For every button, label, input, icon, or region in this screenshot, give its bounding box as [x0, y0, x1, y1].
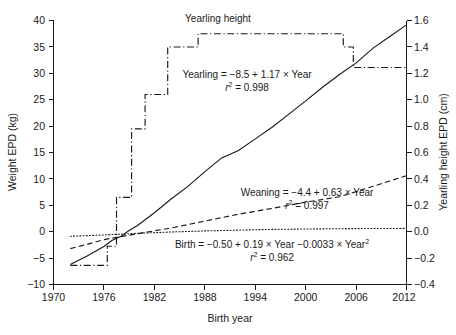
x-tick-label: 1976 — [92, 291, 116, 303]
y2-tick-label: 1.2 — [414, 67, 429, 79]
y2-tick-label: 0.8 — [414, 120, 429, 132]
x-tick-label: 1988 — [193, 291, 217, 303]
y2-tick-label: 0.4 — [414, 173, 429, 185]
y-tick-label: 10 — [33, 173, 45, 185]
y-tick-label: 30 — [33, 67, 45, 79]
birth-r2-text: r2 = 0.962 — [250, 251, 294, 263]
x-tick-label: 2000 — [294, 291, 318, 303]
weaning-equation-annotation: Weaning = −4.4 + 0.63 × Year r2 = 0.997 — [241, 187, 374, 211]
yearling-r2-value: = 0.998 — [232, 82, 269, 93]
y-axis-title: Weight EPD (kg) — [6, 113, 18, 191]
y2-tick-label: 0.6 — [414, 146, 429, 158]
x-axis-ticks — [54, 285, 407, 290]
birth-r2-value: = 0.962 — [257, 252, 294, 263]
y-tick-label: 35 — [33, 41, 45, 53]
yearling-r2-text: r2 = 0.998 — [225, 81, 269, 93]
x-tick-label: 2012 — [392, 291, 416, 303]
series-group — [70, 25, 406, 265]
y-tick-label: 40 — [33, 14, 45, 26]
y-tick-label: 5 — [39, 199, 45, 211]
y2-tick-label: −0.4 — [414, 278, 435, 290]
y2-axis-title: Yearling height EPD (cm) — [437, 93, 449, 211]
y-axis-right-tick-labels: 1.6 1.4 1.2 1.0 0.8 0.6 0.4 0.2 0.0 −0.2… — [414, 14, 435, 290]
yearling-equation-text: Yearling = −8.5 + 1.17 × Year — [182, 69, 312, 80]
y-tick-label: 25 — [33, 93, 45, 105]
weaning-r2-text: r2 = 0.997 — [285, 199, 329, 211]
y2-tick-label: 1.4 — [414, 41, 429, 53]
x-tick-label: 1994 — [244, 291, 268, 303]
y2-tick-label: 1.0 — [414, 93, 429, 105]
weaning-equation-text: Weaning = −4.4 + 0.63 × Year — [241, 187, 374, 198]
weaning-r2-value: = 0.997 — [292, 200, 329, 211]
y-tick-label: −5 — [33, 252, 45, 264]
y-tick-label: 15 — [33, 146, 45, 158]
epd-trend-chart: 40 35 30 25 20 15 10 5 0 −5 −10 1.6 1.4 … — [0, 0, 456, 335]
y2-tick-label: 0.2 — [414, 199, 429, 211]
birth-equation-text: Birth = −0.50 + 0.19 × Year −0.0033 × Ye… — [175, 238, 369, 250]
birth-equation-exponent: 2 — [365, 238, 369, 245]
yearling-height-label: Yearling height — [185, 13, 251, 24]
y-axis-right-ticks — [407, 21, 412, 285]
x-tick-label: 1970 — [42, 291, 66, 303]
x-axis-tick-labels: 1970 1976 1982 1988 1994 2000 2006 2012 — [42, 291, 416, 303]
chart-container: 40 35 30 25 20 15 10 5 0 −5 −10 1.6 1.4 … — [0, 0, 456, 335]
x-tick-label: 2006 — [345, 291, 369, 303]
y2-tick-label: −0.2 — [414, 252, 435, 264]
y-axis-left-ticks — [49, 21, 54, 285]
y-tick-label: 20 — [33, 120, 45, 132]
series-birth-line — [70, 228, 406, 236]
yearling-equation-annotation: Yearling = −8.5 + 1.17 × Year r2 = 0.998 — [182, 69, 312, 93]
x-tick-label: 1982 — [143, 291, 167, 303]
birth-equation-annotation: Birth = −0.50 + 0.19 × Year −0.0033 × Ye… — [175, 238, 369, 263]
y-tick-label: −10 — [27, 278, 45, 290]
y-tick-label: 0 — [39, 225, 45, 237]
y-axis-left-tick-labels: 40 35 30 25 20 15 10 5 0 −5 −10 — [27, 14, 45, 290]
y2-tick-label: 0.0 — [414, 225, 429, 237]
birth-equation-main: Birth = −0.50 + 0.19 × Year −0.0033 × Ye… — [175, 239, 366, 250]
x-axis-title: Birth year — [208, 312, 253, 324]
y2-tick-label: 1.6 — [414, 14, 429, 26]
